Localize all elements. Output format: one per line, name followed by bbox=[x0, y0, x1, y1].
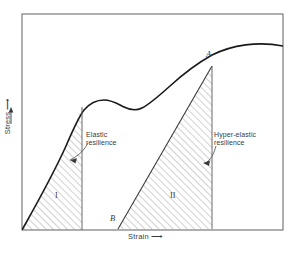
hyper-elastic-resilience-annotation: Hyper-elastic resilience bbox=[214, 131, 256, 147]
stress-strain-figure: Stress ⟶ Strain ⟶ Elastic resilience Hyp… bbox=[0, 0, 294, 254]
point-b-label: B bbox=[110, 214, 115, 224]
elastic-resilience-annotation: Elastic resilience bbox=[86, 131, 117, 147]
point-a-label: A bbox=[206, 50, 211, 60]
region-two-label: II bbox=[170, 191, 175, 200]
plot-canvas bbox=[0, 0, 294, 254]
region-one-label: I bbox=[55, 191, 58, 200]
y-axis-label: Stress ⟶ bbox=[4, 92, 13, 140]
x-axis-label: Strain ⟶ bbox=[128, 233, 162, 242]
